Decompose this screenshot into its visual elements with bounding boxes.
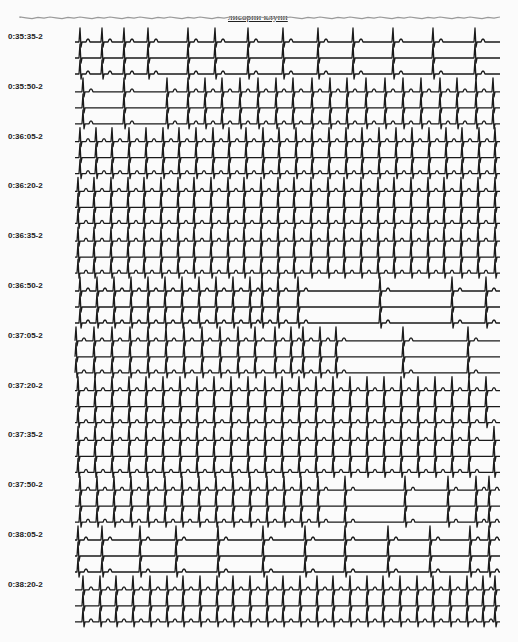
ecg-trace-line xyxy=(75,160,500,179)
ecg-trace-line xyxy=(75,492,500,511)
ecg-trace-line xyxy=(75,60,500,79)
ecg-trace-line xyxy=(75,426,500,445)
ecg-trace-line xyxy=(75,327,500,346)
ecg-trace-line xyxy=(75,476,500,495)
ecg-trace-line xyxy=(75,110,500,129)
ecg-trace-line xyxy=(75,28,500,47)
baseline-noise xyxy=(20,17,500,19)
ecg-trace-line xyxy=(75,177,500,196)
ecg-trace-line xyxy=(75,277,500,296)
ecg-trace-line xyxy=(75,309,500,328)
ecg-trace-line xyxy=(75,526,500,545)
ecg-trace-line xyxy=(75,78,500,97)
ecg-trace-line xyxy=(75,508,500,527)
ecg-trace-line xyxy=(75,193,500,212)
ecg-trace-line xyxy=(75,243,500,262)
ecg-trace-line xyxy=(75,44,500,63)
ecg-trace-line xyxy=(75,343,500,362)
ecg-trace-line xyxy=(75,128,500,147)
ecg-trace-line xyxy=(75,227,500,246)
ecg-trace-line xyxy=(75,377,500,396)
ecg-traces xyxy=(0,0,518,642)
ecg-rhythm-strip-page: лисорпи клупп 0:35:35-20:35:50-20:36:05-… xyxy=(0,0,518,642)
ecg-trace-line xyxy=(75,608,500,627)
ecg-trace-line xyxy=(75,293,500,312)
ecg-trace-line xyxy=(75,94,500,113)
ecg-trace-line xyxy=(75,144,500,163)
ecg-trace-line xyxy=(75,576,500,595)
ecg-trace-line xyxy=(75,209,500,228)
ecg-trace-line xyxy=(75,259,500,278)
ecg-trace-line xyxy=(75,592,500,611)
ecg-trace-line xyxy=(75,359,500,378)
ecg-trace-line xyxy=(75,542,500,561)
ecg-trace-line xyxy=(75,558,500,577)
